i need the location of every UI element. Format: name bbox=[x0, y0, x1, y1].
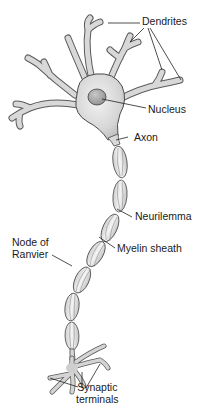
label-neurilemma: Neurilemma bbox=[135, 210, 192, 222]
label-synaptic-terminals: Synaptic terminals bbox=[76, 381, 119, 405]
nucleus bbox=[88, 89, 106, 105]
label-axon: Axon bbox=[134, 131, 158, 143]
cell-body bbox=[76, 74, 125, 140]
label-dendrites: Dendrites bbox=[142, 15, 187, 27]
label-myelin-sheath: Myelin sheath bbox=[117, 242, 182, 254]
neuron-diagram: Dendrites Nucleus Axon Neurilemma Myelin… bbox=[0, 0, 203, 414]
label-nucleus: Nucleus bbox=[148, 103, 186, 115]
label-node-of-ranvier: Node of Ranvier bbox=[12, 236, 49, 260]
neuron-illustration bbox=[0, 0, 203, 414]
